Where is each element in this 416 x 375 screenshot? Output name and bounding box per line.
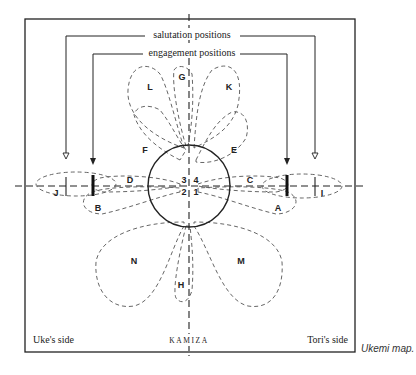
engagement-leaders	[93, 54, 287, 158]
zone-H-lobe	[175, 226, 193, 302]
uke-side-label: Uke's side	[33, 334, 75, 345]
engagement-label: engagement positions	[149, 47, 236, 58]
zone-K-lobe	[194, 66, 240, 148]
zone-L-lobe	[128, 66, 184, 148]
zone-label-H: H	[178, 280, 185, 290]
ukemi-map-diagram: salutation positions engagement position…	[0, 0, 416, 375]
tori-side-label: Tori's side	[307, 334, 348, 345]
zone-C-lobe	[198, 176, 288, 192]
quadrant-3: 3	[181, 175, 186, 185]
zone-label-C: C	[247, 175, 254, 185]
zone-label-M: M	[237, 256, 245, 266]
quadrant-2: 2	[181, 187, 186, 197]
engagement-arrow-right-icon	[284, 158, 290, 165]
zone-label-D: D	[127, 175, 134, 185]
salutation-arrow-right-icon	[312, 153, 318, 159]
zone-label-I: I	[321, 188, 324, 198]
zone-label-L: L	[147, 82, 153, 92]
zone-J-lobe	[36, 172, 116, 196]
zone-label-J: J	[53, 188, 58, 198]
zone-label-E: E	[231, 145, 237, 155]
zone-E-lobe	[196, 112, 247, 163]
zone-label-N: N	[131, 256, 138, 266]
kamiza-label: KAMIZA	[169, 336, 209, 345]
quadrant-1: 1	[193, 187, 198, 197]
zone-label-B: B	[95, 203, 102, 213]
salutation-arrow-left-icon	[63, 153, 69, 159]
zone-label-K: K	[226, 82, 233, 92]
zone-N-lobe	[96, 222, 184, 307]
salutation-label: salutation positions	[153, 29, 231, 40]
zone-label-A: A	[275, 203, 282, 213]
zone-label-G: G	[178, 72, 185, 82]
figure-caption: Ukemi map.	[361, 343, 414, 354]
zone-label-F: F	[142, 145, 148, 155]
zone-D-lobe	[92, 176, 180, 192]
quadrant-4: 4	[193, 175, 198, 185]
zone-A-lobe	[198, 187, 296, 214]
engagement-arrow-left-icon	[90, 158, 96, 165]
